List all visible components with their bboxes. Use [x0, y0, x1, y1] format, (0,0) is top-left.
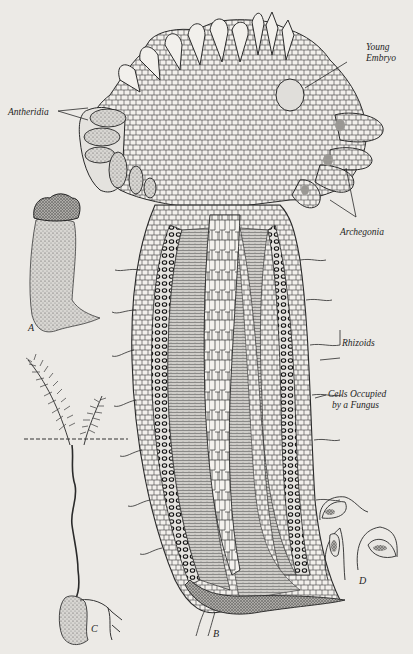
panel-letter-a: A	[28, 322, 34, 333]
label-antheridia: Antheridia	[8, 107, 49, 118]
panel-a-crown	[34, 194, 80, 221]
label-rhizoids: Rhizoids	[342, 338, 375, 349]
panel-d-fungus-cells	[320, 497, 397, 580]
botanical-figure	[0, 0, 413, 654]
panel-a-body	[30, 218, 100, 332]
label-young-embryo-line1: Young	[366, 42, 396, 53]
leafy-shoot-right	[80, 396, 106, 445]
label-archegonia: Archegonia	[340, 227, 384, 238]
panel-letter-c: C	[91, 623, 98, 634]
label-cells-fungus-line2: by a Fungus	[328, 400, 386, 411]
panel-a-gametophyte	[30, 194, 100, 332]
young-embryo	[276, 79, 304, 111]
panel-letter-b: B	[213, 628, 219, 639]
leafy-shoot-left	[26, 354, 75, 445]
label-cells-occupied-by-fungus: Cells Occupied by a Fungus	[328, 389, 386, 411]
label-young-embryo: Young Embryo	[366, 42, 396, 64]
panel-c-plant	[24, 354, 128, 645]
panel-c-tuber	[59, 596, 88, 645]
label-young-embryo-line2: Embryo	[366, 53, 396, 64]
label-cells-fungus-line1: Cells Occupied	[328, 389, 386, 400]
panel-letter-d: D	[359, 575, 366, 586]
panel-c-stem	[72, 445, 79, 600]
